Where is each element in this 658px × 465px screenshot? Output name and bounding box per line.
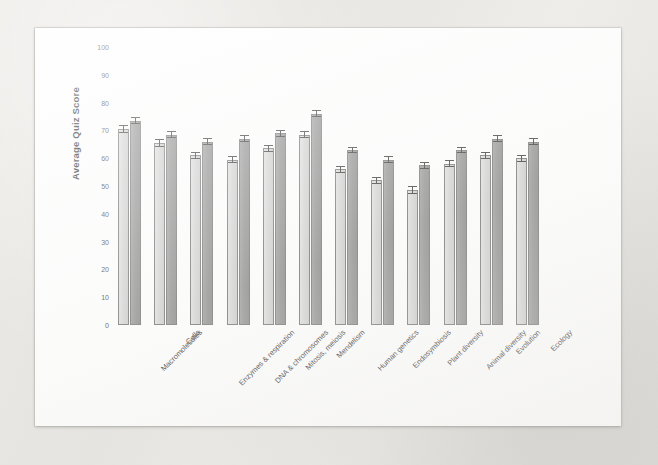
- error-bar: [155, 139, 164, 146]
- y-axis-tick-60: 60: [79, 155, 109, 162]
- error-bar: [493, 135, 502, 142]
- bar-group: [263, 47, 287, 325]
- error-bar: [131, 117, 140, 124]
- error-bar: [240, 135, 249, 142]
- bar-group: [227, 47, 251, 325]
- bar-light: [190, 155, 201, 325]
- error-bar: [203, 138, 212, 145]
- error-bar: [228, 156, 237, 163]
- bar-light: [371, 180, 382, 325]
- x-axis-labels: MacromoleculesCellsEnzymes & respiration…: [113, 328, 583, 424]
- bar-group: [299, 47, 323, 325]
- bar-dark: [492, 139, 503, 325]
- bar-light: [407, 190, 418, 325]
- bar-group: [190, 47, 214, 325]
- error-bar: [445, 160, 454, 167]
- bar-light: [335, 169, 346, 325]
- bar-light: [444, 164, 455, 325]
- error-bar: [276, 130, 285, 137]
- error-bar: [348, 147, 357, 154]
- error-bar: [167, 131, 176, 138]
- bar-light: [227, 160, 238, 325]
- error-bar: [191, 152, 200, 159]
- error-bar: [517, 155, 526, 162]
- error-bar: [457, 147, 466, 154]
- bar-dark: [419, 165, 430, 325]
- plot-area: 0102030405060708090100: [113, 47, 547, 325]
- figure-page: Average Quiz Score 010203040506070809010…: [35, 28, 621, 426]
- bar-light: [480, 155, 491, 325]
- error-bar: [300, 131, 309, 138]
- y-axis-tick-20: 20: [79, 266, 109, 273]
- y-axis-tick-40: 40: [79, 211, 109, 218]
- error-bar: [420, 162, 429, 169]
- bar-light: [299, 135, 310, 325]
- bar-group: [444, 47, 468, 325]
- y-axis-tick-10: 10: [79, 294, 109, 301]
- bar-dark: [383, 160, 394, 325]
- error-bar: [372, 177, 381, 184]
- bar-group: [407, 47, 431, 325]
- bar-group: [118, 47, 142, 325]
- y-axis-tick-100: 100: [79, 44, 109, 51]
- error-bar: [481, 152, 490, 159]
- bar-group: [480, 47, 504, 325]
- y-axis-tick-0: 0: [79, 322, 109, 329]
- bar-dark: [347, 150, 358, 325]
- error-bar: [312, 110, 321, 117]
- bar-light: [154, 143, 165, 325]
- y-axis-tick-30: 30: [79, 239, 109, 246]
- bar-dark: [528, 142, 539, 325]
- bar-dark: [166, 135, 177, 325]
- bar-group: [371, 47, 395, 325]
- bar-light: [118, 129, 129, 325]
- x-axis-label: Ecology: [549, 328, 574, 353]
- x-axis-label: Enzymes & respiration: [237, 328, 296, 387]
- bar-dark: [275, 133, 286, 325]
- y-axis-tick-90: 90: [79, 72, 109, 79]
- error-bar: [529, 138, 538, 145]
- error-bar: [336, 166, 345, 173]
- error-bar: [408, 186, 417, 194]
- bar-group: [516, 47, 540, 325]
- bar-group: [154, 47, 178, 325]
- y-axis-tick-70: 70: [79, 127, 109, 134]
- bar-dark: [311, 114, 322, 325]
- y-axis-tick-80: 80: [79, 100, 109, 107]
- bar-light: [263, 148, 274, 325]
- error-bar: [119, 125, 128, 132]
- bar-chart: Average Quiz Score 010203040506070809010…: [35, 28, 621, 426]
- bar-group: [335, 47, 359, 325]
- bar-dark: [239, 139, 250, 325]
- error-bar: [264, 145, 273, 152]
- bar-light: [516, 158, 527, 325]
- error-bar: [384, 156, 393, 163]
- bar-dark: [456, 150, 467, 325]
- bar-dark: [130, 121, 141, 325]
- y-axis-tick-50: 50: [79, 183, 109, 190]
- bar-dark: [202, 142, 213, 325]
